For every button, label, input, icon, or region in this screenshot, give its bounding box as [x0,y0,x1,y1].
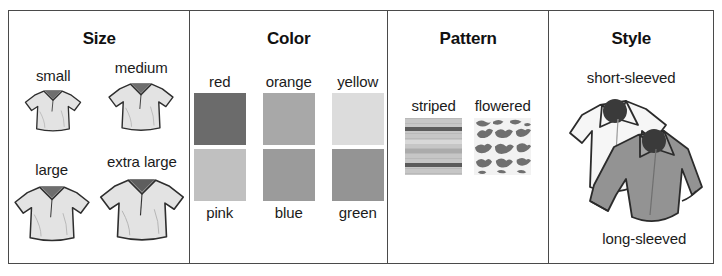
size-item-label: medium [115,59,168,76]
style-shirts-illustration [556,91,706,235]
panel-title-pattern: Pattern [388,29,549,49]
polo-shirt-icon [104,77,178,139]
size-item-label: large [35,161,68,178]
flowered-pattern-icon[interactable] [474,118,531,175]
color-swatch[interactable] [263,149,315,201]
color-item-red[interactable]: red [194,73,246,145]
color-item-pink[interactable]: pink [194,149,246,221]
color-swatch[interactable] [332,149,384,201]
polo-shirt-icon [10,179,94,250]
panel-size: Size small [9,11,190,263]
pattern-item-label: striped [412,97,456,114]
style-item-label-long-sleeved: long-sleeved [549,230,713,247]
size-item-label: small [36,67,71,84]
color-swatch[interactable] [263,93,315,145]
size-item-extra-large[interactable]: extra large [94,153,189,250]
pattern-item-striped[interactable]: striped [405,97,462,175]
polo-shirt-icon [22,85,84,139]
panel-color: Color red orange yellow pink blue [190,11,387,263]
style-item-label-short-sleeved: short-sleeved [549,69,713,86]
panel-style: Style short-sleeved [549,11,713,263]
color-item-green[interactable]: green [332,149,384,221]
panel-title-size: Size [9,29,189,49]
color-item-yellow[interactable]: yellow [332,73,384,145]
polo-shirt-icon [95,171,189,250]
striped-pattern-icon[interactable] [405,118,462,175]
pattern-item-flowered[interactable]: flowered [474,97,531,175]
color-swatch[interactable] [332,93,384,145]
color-item-label: red [209,73,230,90]
color-swatch[interactable] [194,149,246,201]
size-items-grid: small [9,59,189,250]
color-item-label: green [339,204,377,221]
color-item-label: yellow [337,73,378,90]
color-swatch-grid: red orange yellow pink blue gre [194,73,384,221]
panel-title-style: Style [549,29,713,49]
size-item-large[interactable]: large [9,161,94,250]
color-item-label: blue [275,204,303,221]
size-item-small[interactable]: small [11,67,95,139]
size-row-bottom: large [9,153,189,250]
color-item-label: pink [206,204,233,221]
pattern-item-label: flowered [475,97,531,114]
pattern-swatch-row: striped flowered [405,97,531,175]
panel-title-color: Color [190,29,386,49]
color-swatch[interactable] [194,93,246,145]
color-item-orange[interactable]: orange [263,73,315,145]
size-item-medium[interactable]: medium [95,59,187,139]
color-item-blue[interactable]: blue [263,149,315,221]
attribute-panels-figure: Size small [8,10,714,264]
size-item-label: extra large [107,153,177,170]
color-item-label: orange [266,73,312,90]
panel-pattern: Pattern striped flowered [388,11,550,263]
size-row-top: small [9,59,189,139]
